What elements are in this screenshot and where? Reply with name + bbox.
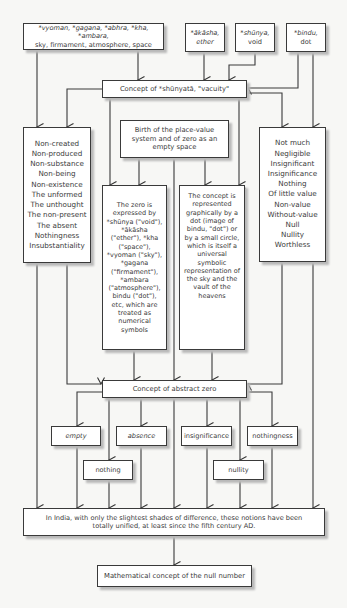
notion-nothing-label: nothing: [95, 466, 120, 474]
notion-empty-box: empty: [51, 426, 101, 446]
notion-absence-label: absence: [128, 432, 156, 440]
akasha-box: *ākāsha, ether: [185, 23, 225, 52]
list-item: Non-substance: [30, 159, 84, 169]
list-item: The non-present: [27, 210, 86, 220]
list-item: Insignificance: [268, 169, 317, 179]
shunya-term: *shūnya,: [240, 29, 269, 37]
birth-box: Birth of the place-value system and of z…: [120, 120, 229, 158]
shunya-box: *shūnya, void: [235, 23, 275, 52]
notion-nothingness-box: nothingness: [247, 426, 298, 446]
abstract-zero-box: Concept of abstract zero: [102, 380, 247, 398]
list-item: Without-value: [267, 210, 317, 220]
shunyata-concept-box: Concept of *shūnyatā, "vacuity": [102, 80, 247, 98]
right-list-box: Not muchNegligibleInsignificantInsignifi…: [259, 127, 326, 262]
sky-terms-sanskrit: *vyoman, *gagana, *abhra, *kha, *ambara,: [26, 24, 161, 41]
list-item: Null: [286, 220, 300, 230]
birth-label: Birth of the place-value system and of z…: [129, 126, 220, 152]
bindu-meaning: dot: [301, 38, 312, 46]
list-item: Nullity: [281, 230, 304, 240]
notion-absence-box: absence: [116, 426, 167, 446]
notion-nothing-box: nothing: [83, 460, 133, 480]
shunya-meaning: void: [248, 38, 262, 46]
sky-terms-box: *vyoman, *gagana, *abhra, *kha, *ambara,…: [23, 23, 164, 50]
bindu-box: *bindu, dot: [286, 23, 326, 52]
list-item: Negligible: [275, 149, 311, 159]
concept-represented-label: The concept is represented graphically b…: [183, 188, 241, 300]
abstract-zero-label: Concept of abstract zero: [133, 385, 217, 394]
notion-nullity-box: nullity: [213, 460, 264, 480]
akasha-term: *ākāsha,: [191, 29, 220, 37]
list-item: The unthought: [30, 200, 83, 210]
unified-statement-box: In India, with only the slightest shades…: [23, 508, 325, 536]
null-number-box: Mathematical concept of the null number: [97, 565, 252, 587]
list-item: Non-value: [274, 200, 310, 210]
list-item: Non-being: [38, 169, 75, 179]
list-item: Worthless: [275, 240, 310, 250]
notion-insignificance-box: insignificance: [181, 426, 232, 446]
zero-expressed-box: The zero is expressed by *shūnya ("void"…: [102, 185, 167, 350]
sky-terms-english: sky, firmament, atmosphere, space: [35, 41, 152, 49]
list-item: Of little value: [268, 189, 316, 199]
notion-nothingness-label: nothingness: [252, 432, 292, 440]
list-item: The absent: [37, 221, 77, 231]
list-item: The unformed: [32, 190, 83, 200]
list-item: Nothing: [278, 179, 306, 189]
notion-empty-label: empty: [65, 432, 86, 440]
list-item: Non-created: [35, 139, 79, 149]
null-number-label: Mathematical concept of the null number: [104, 572, 245, 581]
bindu-term: *bindu,: [294, 29, 318, 37]
zero-expressed-label: The zero is expressed by *shūnya ("void"…: [106, 201, 163, 334]
left-list-box: Non-createdNon-producedNon-substanceNon-…: [23, 127, 91, 263]
notion-insignificance-label: insignificance: [184, 432, 229, 440]
notion-nullity-label: nullity: [228, 466, 248, 474]
list-item: Insubstantiality: [29, 241, 84, 251]
list-item: Non-existence: [31, 180, 82, 190]
shunyata-concept-label: Concept of *shūnyatā, "vacuity": [120, 85, 229, 94]
unified-statement-label: In India, with only the slightest shades…: [38, 514, 310, 531]
concept-represented-box: The concept is represented graphically b…: [179, 185, 245, 350]
list-item: Not much: [275, 138, 310, 148]
akasha-meaning: ether: [196, 38, 214, 46]
list-item: Non-produced: [32, 149, 83, 159]
list-item: Insignificant: [271, 159, 315, 169]
list-item: Nothingness: [35, 231, 80, 241]
